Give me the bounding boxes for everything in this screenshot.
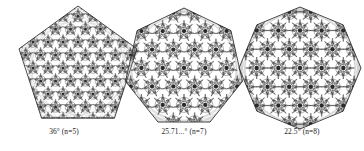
octagon-caption: 22.5° (n=8) bbox=[240, 127, 364, 136]
figure-plate: 36° (n=5) 25.71...° (n=7) 22.5° (n=8) bbox=[0, 0, 364, 151]
figure-panel-octagon: 22.5° (n=8) bbox=[240, 0, 364, 151]
